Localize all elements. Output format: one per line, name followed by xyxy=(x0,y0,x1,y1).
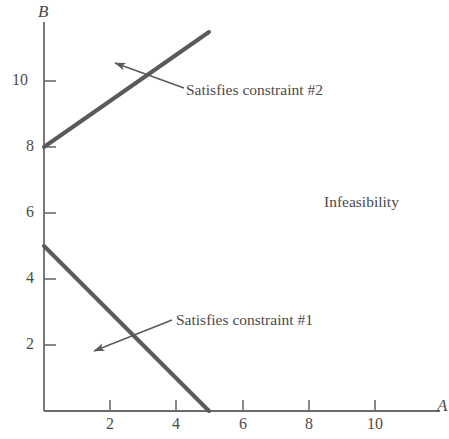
y-axis-label: B xyxy=(38,2,48,22)
constraint-1-annotation: Satisfies constraint #1 xyxy=(176,311,313,329)
x-axis-label: A xyxy=(437,396,447,416)
infeasibility-chart: B A 2 4 6 8 10 2 4 6 8 10 Satisfies cons… xyxy=(0,0,449,439)
y-tick-label: 10 xyxy=(2,71,28,89)
x-tick-label: 6 xyxy=(226,415,260,433)
y-tick-label: 4 xyxy=(8,269,34,287)
y-tick-label: 6 xyxy=(8,203,34,221)
constraint-2-line xyxy=(44,32,209,147)
y-axis-ticks xyxy=(44,81,56,345)
y-tick-label: 2 xyxy=(8,335,34,353)
x-tick-label: 8 xyxy=(292,415,326,433)
constraint-2-annotation: Satisfies constraint #2 xyxy=(186,81,323,99)
x-axis-ticks xyxy=(110,400,375,411)
x-tick-label: 2 xyxy=(93,415,127,433)
x-tick-label: 10 xyxy=(358,415,392,433)
plot-area xyxy=(0,0,449,439)
infeasibility-region-label: Infeasibility xyxy=(324,193,399,211)
constraint-1-arrow xyxy=(94,320,172,351)
constraint-2-arrow xyxy=(115,63,184,88)
y-tick-label: 8 xyxy=(8,137,34,155)
x-tick-label: 4 xyxy=(159,415,193,433)
